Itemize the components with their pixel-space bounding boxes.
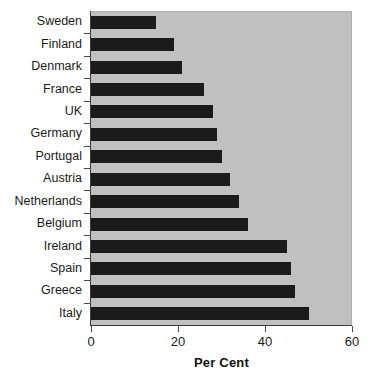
- category-tick: [84, 258, 91, 259]
- bar-row: [91, 240, 352, 253]
- value-tick-label-0: 0: [87, 334, 94, 349]
- category-label-sweden: Sweden: [0, 15, 82, 28]
- value-tick: [265, 326, 266, 332]
- category-tick: [84, 146, 91, 147]
- category-label-ireland: Ireland: [0, 240, 82, 253]
- bar-austria: [91, 173, 230, 186]
- x-axis-title: Per Cent: [91, 355, 352, 370]
- category-tick: [84, 280, 91, 281]
- category-label-italy: Italy: [0, 307, 82, 320]
- category-label-layer: SwedenFinlandDenmarkFranceUKGermanyPortu…: [0, 11, 82, 325]
- bar-row: [91, 38, 352, 51]
- value-tick: [178, 326, 179, 332]
- category-label-uk: UK: [0, 105, 82, 118]
- bar-italy: [91, 307, 309, 320]
- bar-row: [91, 307, 352, 320]
- bar-greece: [91, 285, 295, 298]
- category-tick: [84, 56, 91, 57]
- bar-row: [91, 61, 352, 74]
- category-label-portugal: Portugal: [0, 150, 82, 163]
- category-tick: [84, 123, 91, 124]
- bar-finland: [91, 38, 174, 51]
- bar-row: [91, 150, 352, 163]
- bar-row: [91, 262, 352, 275]
- bar-france: [91, 83, 204, 96]
- value-tick-label-40: 40: [258, 334, 272, 349]
- category-label-germany: Germany: [0, 127, 82, 140]
- category-tick: [84, 303, 91, 304]
- value-tick-label-20: 20: [171, 334, 185, 349]
- bar-uk: [91, 105, 213, 118]
- value-tick: [91, 326, 92, 332]
- value-tick: [352, 326, 353, 332]
- bar-row: [91, 105, 352, 118]
- bar-portugal: [91, 150, 222, 163]
- category-tick: [84, 190, 91, 191]
- category-tick: [84, 235, 91, 236]
- bar-row: [91, 173, 352, 186]
- bar-row: [91, 218, 352, 231]
- category-tick: [84, 78, 91, 79]
- bar-row: [91, 128, 352, 141]
- bar-row: [91, 195, 352, 208]
- bar-germany: [91, 128, 217, 141]
- category-label-austria: Austria: [0, 172, 82, 185]
- bar-spain: [91, 262, 291, 275]
- bar-belgium: [91, 218, 248, 231]
- bar-sweden: [91, 16, 156, 29]
- bar-ireland: [91, 240, 287, 253]
- category-tick: [84, 101, 91, 102]
- bar-row: [91, 285, 352, 298]
- bar-denmark: [91, 61, 182, 74]
- value-axis-line: [90, 325, 352, 326]
- bar-netherlands: [91, 195, 239, 208]
- category-tick: [84, 168, 91, 169]
- category-label-netherlands: Netherlands: [0, 195, 82, 208]
- bar-row: [91, 16, 352, 29]
- bars-layer: [91, 11, 352, 325]
- category-label-finland: Finland: [0, 38, 82, 51]
- value-tick-label-60: 60: [345, 334, 359, 349]
- bar-row: [91, 83, 352, 96]
- category-label-france: France: [0, 83, 82, 96]
- category-label-greece: Greece: [0, 284, 82, 297]
- category-label-spain: Spain: [0, 262, 82, 275]
- bar-chart: SwedenFinlandDenmarkFranceUKGermanyPortu…: [0, 0, 371, 380]
- category-label-belgium: Belgium: [0, 217, 82, 230]
- category-tick: [84, 33, 91, 34]
- category-label-denmark: Denmark: [0, 60, 82, 73]
- category-tick: [84, 213, 91, 214]
